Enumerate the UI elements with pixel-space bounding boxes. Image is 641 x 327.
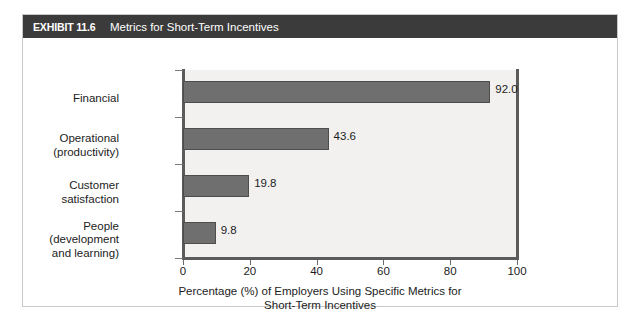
x-axis-tick-label: 40 <box>310 265 323 277</box>
bar-row: 19.8Customer satisfaction <box>23 164 617 211</box>
x-axis-caption-line-2: Short-Term Incentives <box>23 298 617 312</box>
y-axis-tick <box>175 211 183 212</box>
bar-value-label: 43.6 <box>334 130 356 142</box>
bar[interactable] <box>183 81 490 103</box>
x-axis-tick-label: 100 <box>507 265 526 277</box>
category-label: Operational (productivity) <box>0 132 119 159</box>
bar-row: 43.6Operational (productivity) <box>23 117 617 164</box>
bar-value-label: 9.8 <box>221 224 237 236</box>
bar[interactable] <box>183 175 249 197</box>
category-label: People (development and learning) <box>0 220 119 261</box>
bar-chart: 92.0Financial43.6Operational (productivi… <box>23 38 617 308</box>
y-axis-tick <box>175 117 183 118</box>
exhibit-title: Metrics for Short-Term Incentives <box>110 21 279 33</box>
y-axis-tick <box>175 164 183 165</box>
y-axis-tick <box>175 258 183 259</box>
x-axis-tick-label: 20 <box>243 265 256 277</box>
bar[interactable] <box>183 222 216 244</box>
bar-value-label: 92.0 <box>495 83 517 95</box>
y-axis-tick <box>175 70 183 71</box>
x-axis-tick-label: 0 <box>180 265 186 277</box>
bar-row: 9.8People (development and learning) <box>23 211 617 258</box>
category-label: Customer satisfaction <box>0 179 119 206</box>
exhibit-number: EXHIBIT 11.6 <box>33 21 95 33</box>
exhibit-screenshot: EXHIBIT 11.6 Metrics for Short-Term Ince… <box>0 0 641 327</box>
exhibit-frame: EXHIBIT 11.6 Metrics for Short-Term Ince… <box>22 14 618 307</box>
bar-value-label: 19.8 <box>254 177 276 189</box>
exhibit-header: EXHIBIT 11.6 Metrics for Short-Term Ince… <box>23 15 617 38</box>
x-axis-caption: Percentage (%) of Employers Using Specif… <box>23 284 617 312</box>
category-label: Financial <box>0 92 119 106</box>
bar-row: 92.0Financial <box>23 70 617 117</box>
bar[interactable] <box>183 128 329 150</box>
x-axis-tick-label: 60 <box>377 265 390 277</box>
x-axis-tick-label: 80 <box>444 265 457 277</box>
x-axis-caption-line-1: Percentage (%) of Employers Using Specif… <box>23 284 617 298</box>
